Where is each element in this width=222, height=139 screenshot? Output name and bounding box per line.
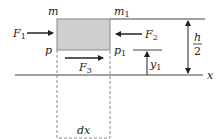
beam-element-diagram: m m1 p p1 F1 F2 F3 y1 h 2 x dx bbox=[0, 0, 222, 139]
label-m1: m1 bbox=[114, 5, 130, 19]
label-m: m bbox=[48, 5, 58, 18]
label-h: h bbox=[194, 31, 201, 44]
label-f1: F1 bbox=[12, 27, 26, 41]
label-f3: F3 bbox=[78, 61, 92, 75]
label-dx: dx bbox=[77, 124, 91, 137]
label-f2: F2 bbox=[144, 28, 158, 42]
element-block bbox=[57, 19, 110, 50]
label-x: x bbox=[207, 69, 214, 82]
label-p: p bbox=[45, 44, 52, 57]
label-p1: p1 bbox=[114, 44, 126, 58]
label-y1: y1 bbox=[149, 58, 161, 72]
label-2: 2 bbox=[194, 45, 201, 58]
